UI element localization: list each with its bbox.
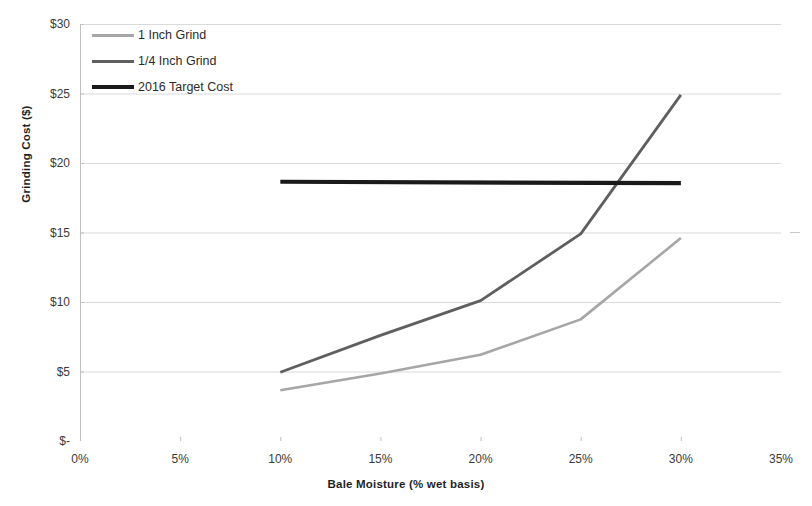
x-axis-tick-label: 10% [250, 452, 310, 466]
y-axis-tick-label: $30 [10, 17, 70, 31]
y-axis-tick-label: $5 [10, 365, 70, 379]
series-line-2016-target-cost[interactable] [280, 182, 681, 183]
legend-swatch-1-inch-grind [92, 34, 134, 37]
y-axis-tick-label: $10 [10, 295, 70, 309]
legend-swatch-quarter-inch-grind [92, 60, 134, 63]
x-axis-tick-label: 20% [451, 452, 511, 466]
x-axis-tick-label: 0% [50, 452, 110, 466]
x-axis-tick-label: 15% [350, 452, 410, 466]
legend-item[interactable]: 1/4 Inch Grind [92, 48, 272, 74]
x-axis-title: Bale Moisture (% wet basis) [0, 478, 812, 490]
series-line-1-4-inch-grind[interactable] [280, 95, 681, 372]
x-axis-tick-label: 5% [150, 452, 210, 466]
right-edge-tick [790, 232, 800, 233]
legend-label-quarter-inch-grind: 1/4 Inch Grind [138, 54, 217, 68]
legend-item[interactable]: 1 Inch Grind [92, 22, 272, 48]
legend-swatch-2016-target-cost [92, 85, 134, 89]
y-axis-tick-label: $25 [10, 87, 70, 101]
legend: 1 Inch Grind 1/4 Inch Grind 2016 Target … [92, 22, 272, 100]
y-axis-tick-label: $15 [10, 226, 70, 240]
x-axis-tick-label: 35% [751, 452, 811, 466]
x-axis-tick-label: 25% [551, 452, 611, 466]
y-axis-tick-label: $- [10, 434, 70, 448]
x-axis-tick-label: 30% [651, 452, 711, 466]
series-line-1-inch-grind[interactable] [280, 238, 681, 390]
y-axis-tick-label: $20 [10, 156, 70, 170]
legend-item[interactable]: 2016 Target Cost [92, 74, 272, 100]
legend-label-2016-target-cost: 2016 Target Cost [138, 80, 233, 94]
legend-label-1-inch-grind: 1 Inch Grind [138, 28, 206, 42]
grinding-cost-line-chart: Grinding Cost ($) $-$5$10$15$20$25$30 0%… [0, 0, 812, 506]
